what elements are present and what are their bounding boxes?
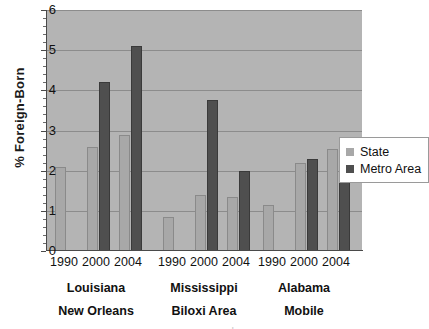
legend-swatch-state-icon — [346, 148, 354, 156]
x-tick-label-mississippi-1990: 1990 — [154, 255, 190, 269]
y-tick-minor — [43, 203, 46, 204]
gridline-6 — [47, 10, 362, 11]
bar-state-alabama-1990 — [263, 205, 274, 251]
x-tick-label-louisiana-2004: 2004 — [110, 255, 146, 269]
y-tick-major-4 — [41, 90, 46, 91]
x-axis-line — [46, 250, 363, 251]
x-tick-label-alabama-1990: 1990 — [254, 255, 290, 269]
y-tick-minor — [43, 179, 46, 180]
y-tick-minor — [43, 122, 46, 123]
legend-item-state: State — [346, 143, 421, 160]
y-tick-minor — [43, 235, 46, 236]
y-tick-minor — [43, 114, 46, 115]
cut-off-caption: a o u r c e u . s . c e n s u s b u r e … — [0, 325, 428, 329]
bar-state-louisiana-2004 — [119, 135, 130, 251]
y-tick-minor — [43, 163, 46, 164]
x-tick-label-mississippi-2000: 2000 — [186, 255, 222, 269]
x-tick-label-louisiana-1990: 1990 — [46, 255, 82, 269]
bar-state-alabama-2004 — [327, 149, 338, 251]
legend-label-metro-area: Metro Area — [360, 162, 421, 176]
chart-legend: State Metro Area — [339, 137, 429, 183]
bar-state-mississippi-2000 — [195, 195, 206, 251]
bar-metro-mobile-2000 — [307, 159, 318, 251]
y-tick-minor — [43, 106, 46, 107]
group-label-state-louisiana: Louisiana — [36, 281, 156, 295]
y-tick-major-6 — [41, 10, 46, 11]
legend-label-state: State — [360, 145, 389, 159]
y-tick-minor — [43, 34, 46, 35]
legend-item-metro-area: Metro Area — [346, 160, 421, 177]
group-label-state-alabama: Alabama — [244, 281, 364, 295]
plot-area — [46, 10, 362, 251]
gridline-3 — [47, 131, 362, 132]
y-tick-minor — [43, 42, 46, 43]
y-tick-major-0 — [41, 251, 46, 252]
bar-metro-biloxi-area-2004 — [239, 171, 250, 251]
x-tick-label-mississippi-2004: 2004 — [218, 255, 254, 269]
y-tick-major-1 — [41, 211, 46, 212]
y-tick-minor — [43, 82, 46, 83]
y-tick-minor — [43, 98, 46, 99]
y-tick-minor — [43, 155, 46, 156]
y-tick-minor — [43, 195, 46, 196]
y-tick-minor — [43, 243, 46, 244]
y-tick-minor — [43, 18, 46, 19]
y-tick-major-3 — [41, 131, 46, 132]
y-tick-minor — [43, 26, 46, 27]
y-tick-minor — [43, 187, 46, 188]
y-tick-minor — [43, 139, 46, 140]
x-tick-label-alabama-2004: 2004 — [318, 255, 354, 269]
bar-state-louisiana-2000 — [87, 147, 98, 251]
bar-metro-new-orleans-2004 — [131, 46, 142, 251]
y-tick-minor — [43, 74, 46, 75]
y-tick-minor — [43, 58, 46, 59]
bar-state-louisiana-1990 — [55, 167, 66, 251]
y-axis-title: % Foreign-Born — [12, 23, 27, 213]
group-label-metro-mobile: Mobile — [244, 304, 364, 318]
bar-state-mississippi-2004 — [227, 197, 238, 251]
y-tick-minor — [43, 66, 46, 67]
gridline-4 — [47, 90, 362, 91]
bar-metro-new-orleans-2000 — [99, 82, 110, 251]
x-tick-label-louisiana-2000: 2000 — [78, 255, 114, 269]
x-tick-label-alabama-2000: 2000 — [286, 255, 322, 269]
gridline-5 — [47, 50, 362, 51]
bar-state-alabama-2000 — [295, 163, 306, 251]
y-tick-minor — [43, 227, 46, 228]
y-tick-minor — [43, 147, 46, 148]
y-tick-major-5 — [41, 50, 46, 51]
legend-swatch-metro-icon — [346, 165, 354, 173]
bar-metro-biloxi-area-2000 — [207, 100, 218, 251]
bar-state-mississippi-1990 — [163, 217, 174, 251]
y-tick-major-2 — [41, 171, 46, 172]
y-tick-minor — [43, 219, 46, 220]
group-label-metro-new-orleans: New Orleans — [36, 304, 156, 318]
